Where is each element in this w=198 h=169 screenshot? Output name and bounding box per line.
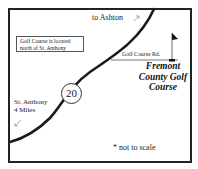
scale-note: * not to scale [113, 144, 155, 152]
highway-shield-icon: 20 [61, 83, 82, 104]
st-anthony-line-2: 4 Miles [14, 107, 54, 115]
arrow-southwest-icon [15, 120, 21, 126]
course-name-line-2: County Golf [132, 72, 194, 83]
golf-course-map: to Ashton Golf Course is located north o… [0, 0, 198, 169]
info-box-line-2: north of St. Anthony [20, 45, 83, 52]
golf-flag-icon [169, 33, 178, 62]
golf-course-name: Fremont County Golf Course [132, 61, 194, 93]
location-info-box: Golf Course is located north of St. Anth… [16, 36, 84, 52]
info-box-line-1: Golf Course is located [20, 38, 83, 45]
ashton-direction-label: to Ashton [92, 14, 123, 22]
golf-course-road-label: Golf Course Rd. [122, 52, 160, 58]
course-name-line-3: Course [132, 82, 194, 93]
st-anthony-direction-label: St. Anthony 4 Miles [14, 99, 54, 114]
arrow-northeast-icon [134, 16, 139, 21]
course-name-line-1: Fremont [132, 61, 194, 72]
